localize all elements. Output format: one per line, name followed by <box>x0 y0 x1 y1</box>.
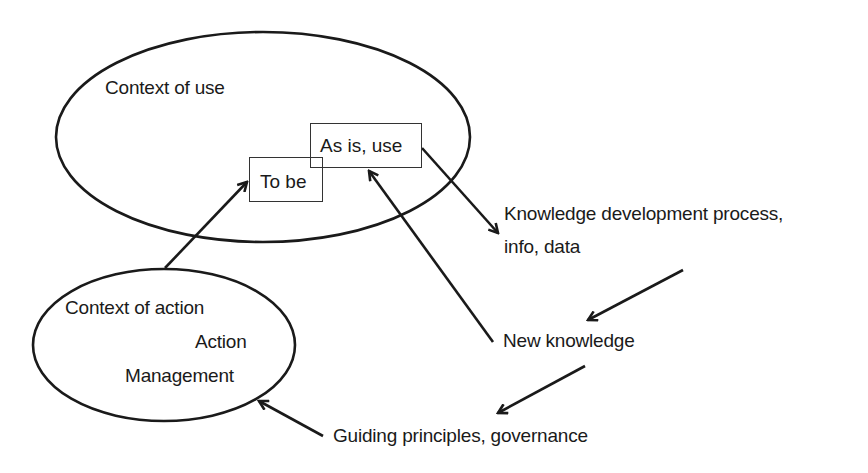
to-be-box: To be <box>249 157 323 202</box>
info-data-label: info, data <box>504 236 580 258</box>
knowledge-development-label: Knowledge development process, <box>504 203 783 225</box>
context-of-action-ellipse <box>33 269 295 421</box>
arrow-asis-to-knowledge <box>422 148 498 233</box>
as-is-use-label: As is, use <box>320 135 402 157</box>
context-of-use-label: Context of use <box>105 77 225 99</box>
arrow-newknowledge-to-guiding <box>498 366 585 413</box>
arrow-guiding-to-action <box>259 401 323 436</box>
guiding-principles-label: Guiding principles, governance <box>333 425 588 447</box>
arrow-knowledge-to-newknowledge <box>588 270 683 320</box>
context-of-action-label: Context of action <box>65 297 204 319</box>
as-is-use-box: As is, use <box>310 123 422 168</box>
diagram-canvas <box>0 0 868 473</box>
management-label: Management <box>125 365 234 387</box>
arrow-action-to-tobe <box>165 182 247 268</box>
arrow-newknowledge-to-asis <box>369 171 493 342</box>
new-knowledge-label: New knowledge <box>503 330 635 352</box>
action-label: Action <box>195 331 247 353</box>
to-be-label: To be <box>260 171 306 193</box>
